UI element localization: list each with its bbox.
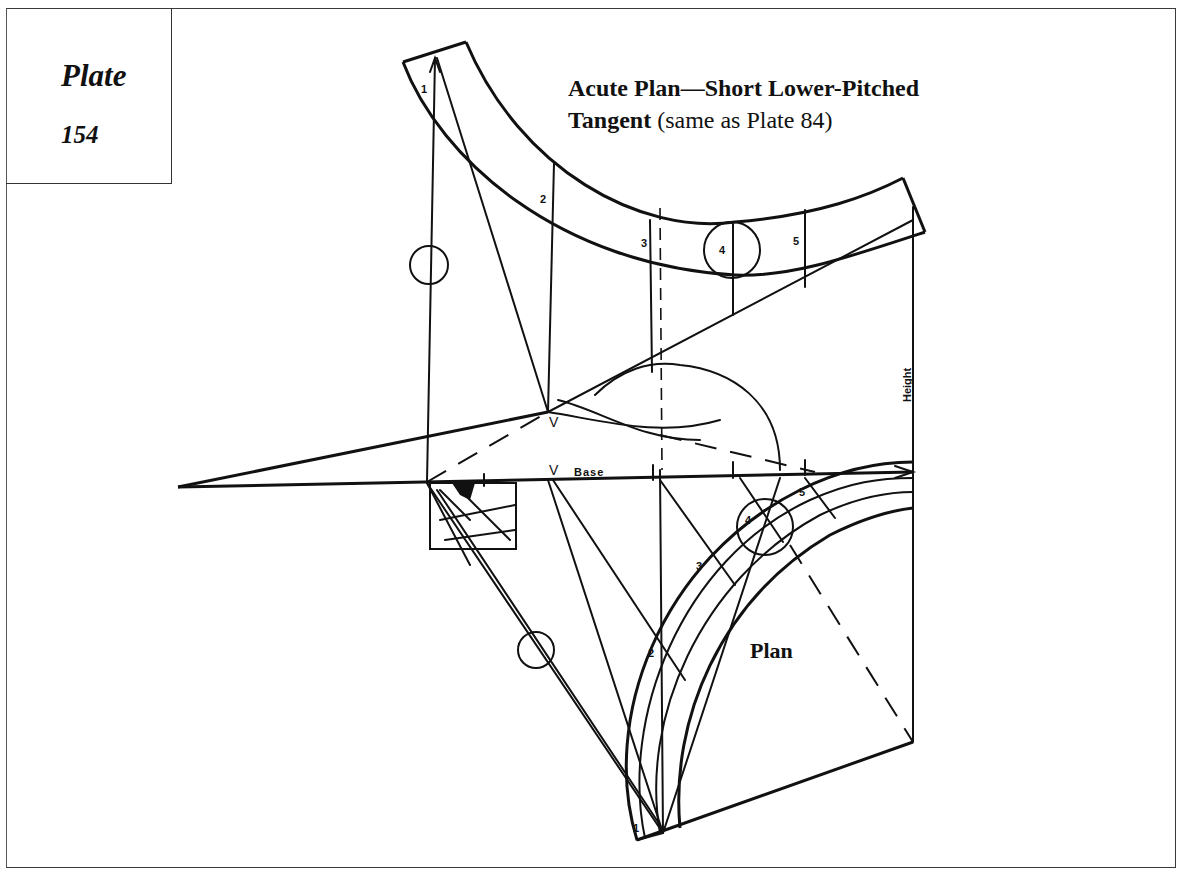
section-label-3-plan: 3: [696, 560, 702, 572]
upper-face-mould: [403, 42, 925, 472]
section-label-4-plan: 4: [745, 514, 751, 526]
vertex-label-base: V: [549, 462, 558, 478]
section-label-2-upper: 2: [540, 193, 546, 205]
section-label-3-upper: 3: [641, 237, 647, 249]
section-label-5-upper: 5: [793, 235, 799, 247]
base-label: Base: [574, 466, 604, 478]
section-label-1-plan: 1: [633, 822, 639, 834]
section-label-1-upper: 1: [421, 83, 427, 95]
pitch-lines: [178, 220, 913, 487]
section-label-4-upper: 4: [719, 244, 725, 256]
handrail-geometry-drawing: [0, 0, 1183, 882]
section-label-5-plan: 5: [799, 486, 805, 498]
section-label-2-plan: 2: [648, 647, 654, 659]
height-label: Height: [901, 368, 913, 402]
plan-label: Plan: [750, 638, 793, 664]
left-construction: [410, 58, 548, 482]
plan-radial-lines: [427, 470, 913, 833]
vertex-label-upper: V: [549, 414, 558, 430]
